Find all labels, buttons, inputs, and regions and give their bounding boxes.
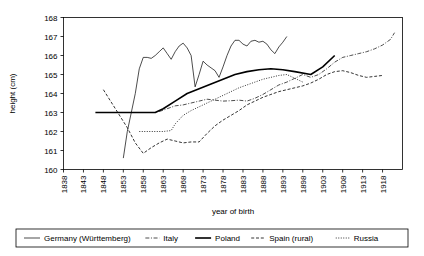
legend-label: Italy xyxy=(163,234,178,243)
y-tick-label: 168 xyxy=(44,14,58,23)
x-tick-label: 1858 xyxy=(139,175,148,193)
chart-legend: Germany (Württemberg)ItalyPolandSpain (r… xyxy=(16,229,408,247)
chart-figure: 160161162163164165166167168 183818431848… xyxy=(0,0,424,256)
legend-label: Germany (Württemberg) xyxy=(44,234,131,243)
y-tick-label: 160 xyxy=(44,166,58,175)
plot-frame xyxy=(64,18,403,170)
x-tick-label: 1848 xyxy=(99,175,108,193)
y-tick-label: 165 xyxy=(44,71,58,80)
legend-label: Spain (rural) xyxy=(269,234,313,243)
y-tick-label: 163 xyxy=(44,109,58,118)
y-tick-label: 161 xyxy=(44,147,58,156)
x-tick-label: 1913 xyxy=(359,175,368,193)
y-tick-label: 166 xyxy=(44,52,58,61)
x-tick-label: 1903 xyxy=(319,175,328,193)
x-tick-label: 1883 xyxy=(239,175,248,193)
x-tick-label: 1838 xyxy=(60,175,69,193)
legend-label: Russia xyxy=(354,234,379,243)
x-tick-label: 1868 xyxy=(179,175,188,193)
x-tick-label: 1893 xyxy=(279,175,288,193)
series-lines xyxy=(95,33,394,158)
y-tick-label: 162 xyxy=(44,128,58,137)
y-tick-label: 167 xyxy=(44,33,58,42)
series-line-italy xyxy=(159,33,394,112)
x-axis-ticks: 1838184318481853185818631868187318781883… xyxy=(60,170,388,194)
x-tick-label: 1873 xyxy=(199,175,208,193)
x-tick-label: 1843 xyxy=(79,175,88,193)
x-tick-label: 1878 xyxy=(219,175,228,193)
x-tick-label: 1918 xyxy=(379,175,388,193)
y-axis-ticks: 160161162163164165166167168 xyxy=(44,14,63,175)
x-tick-label: 1853 xyxy=(119,175,128,193)
series-line-russia xyxy=(139,75,303,132)
y-axis-title: height (cm) xyxy=(8,73,17,113)
series-line-poland xyxy=(95,56,334,113)
x-tick-label: 1898 xyxy=(299,175,308,193)
legend-label: Poland xyxy=(215,234,240,243)
y-tick-label: 164 xyxy=(44,90,58,99)
x-tick-label: 1863 xyxy=(159,175,168,193)
x-tick-label: 1908 xyxy=(339,175,348,193)
x-tick-label: 1888 xyxy=(259,175,268,193)
x-axis-title: year of birth xyxy=(212,207,254,216)
line-chart-canvas: 160161162163164165166167168 183818431848… xyxy=(0,0,424,256)
